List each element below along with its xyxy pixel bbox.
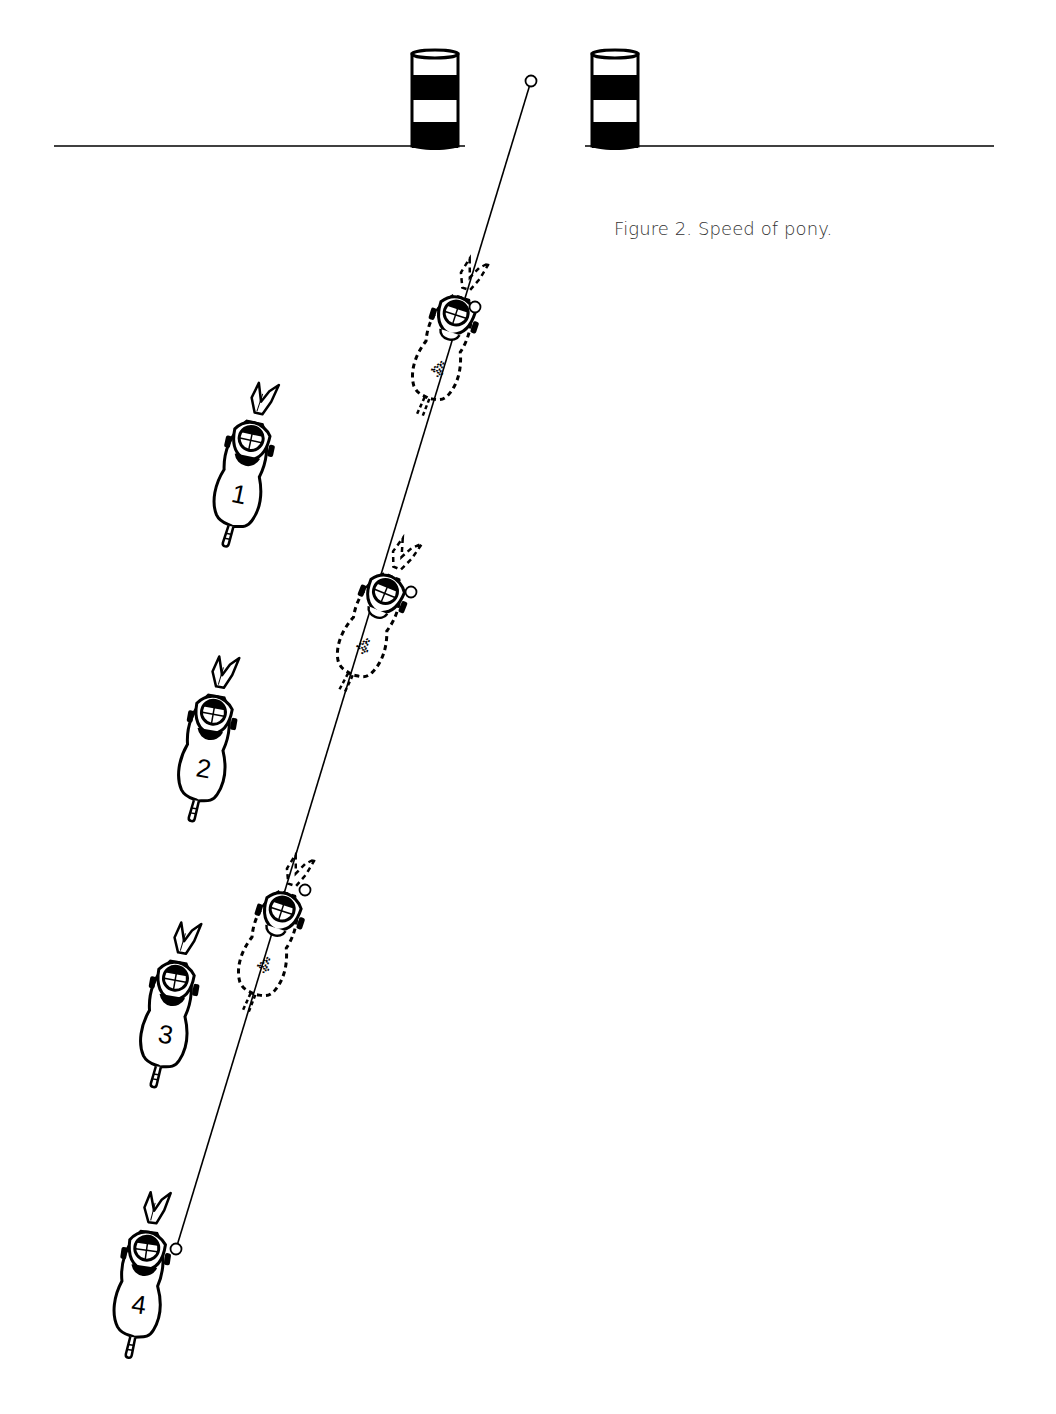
ghost-rider: 4 [322,528,431,701]
numbered-riders: 1234 [107,377,288,1362]
rider-3: 3 [132,917,211,1092]
ghost-riders: 444 [225,250,498,1019]
rider-2: 2 [170,651,249,826]
diagram-canvas: 1234 444 Figure 2. Speed of pony. [0,0,1056,1414]
ghost-rider: 4 [399,250,498,423]
left-barrel [412,50,458,150]
path-marker [470,302,481,313]
path-marker [300,885,311,896]
ghost-rider: 4 [225,846,324,1019]
rider-number: 4 [353,632,374,660]
pony-speed-diagram: 1234 444 [0,0,1056,1414]
path-marker [526,76,537,87]
figure-caption: Figure 2. Speed of pony. [614,218,832,239]
path-marker [171,1244,182,1255]
rider-1: 1 [204,377,288,553]
path-marker [406,587,417,598]
rider-4: 4 [107,1187,180,1361]
right-barrel [592,50,638,150]
rider-number: 4 [428,355,447,383]
rider-number: 4 [254,951,273,979]
